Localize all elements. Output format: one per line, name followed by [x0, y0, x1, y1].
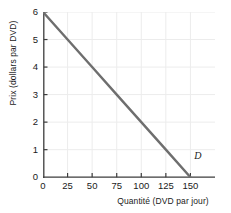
x-tick-label: 100: [128, 180, 154, 191]
x-tick-label: 125: [153, 180, 179, 191]
x-tick-label: 150: [177, 180, 203, 191]
plot-area: [43, 12, 215, 178]
y-tick-label: 1: [24, 144, 38, 155]
x-tick-label: 75: [104, 180, 130, 191]
horizontal-gridlines: [43, 12, 215, 150]
y-tick-label: 4: [24, 61, 38, 72]
x-tick-label: 25: [55, 180, 81, 191]
y-tick-label: 3: [24, 89, 38, 100]
x-tick-label: 0: [30, 180, 56, 191]
y-tick-label: 5: [24, 34, 38, 45]
x-axis-title: Quantité (DVD par jour): [96, 196, 230, 206]
demand-curve-label: D: [194, 150, 201, 161]
y-axis-title: Prix (dollars par DVD): [8, 0, 18, 127]
plot-svg: [43, 12, 215, 178]
demand-curve-chart: Prix (dollars par DVD) Quantité (DVD par…: [0, 0, 231, 213]
y-tick-label: 2: [24, 116, 38, 127]
y-tick-label: 6: [24, 6, 38, 17]
x-tick-label: 50: [79, 180, 105, 191]
